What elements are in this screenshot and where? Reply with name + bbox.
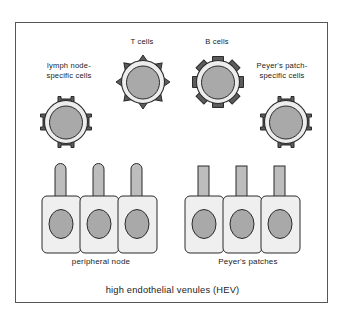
peyers-patches-venules <box>184 151 304 261</box>
t-cells-label: T cells <box>112 37 172 47</box>
peyers-patch-specific-cell <box>253 89 319 155</box>
lymphocyte-homing-diagram: T cells B cells <box>0 0 347 317</box>
b-cell-nucleus <box>202 66 235 99</box>
stalk-flat-3 <box>274 166 285 199</box>
lymph-node-specific-cells-label: lymph node- specific cells <box>30 61 108 80</box>
peripheral-node-label: peripheral node <box>51 257 151 267</box>
lymph-node-cell-nucleus <box>50 106 83 139</box>
peyers-patches-label: Peyer's patches <box>198 257 298 267</box>
lymph-node-specific-cell <box>33 89 99 155</box>
peyers-patch-specific-cells-label: Peyer's patch- specific cells <box>240 61 324 80</box>
peripheral-node-stalks <box>55 164 142 200</box>
b-cell <box>185 49 251 115</box>
peyers-patch-cell-nucleus <box>270 106 303 139</box>
t-cell-nucleus <box>127 66 160 99</box>
stalk-rounded-2 <box>93 164 104 200</box>
figure-caption: high endothelial venules (HEV) <box>16 285 329 295</box>
peyers-patches-endothelial-cells <box>185 196 300 253</box>
peyers-patches-stalks <box>198 166 285 199</box>
diagram-frame: T cells B cells <box>15 22 328 303</box>
b-cells-label: B cells <box>187 37 247 47</box>
peripheral-node-venules <box>41 151 161 261</box>
stalk-rounded-1 <box>55 164 66 200</box>
stalk-rounded-3 <box>131 164 142 200</box>
stalk-flat-1 <box>198 166 209 199</box>
peripheral-node-endothelial-cells <box>42 196 157 253</box>
t-cell <box>110 49 176 115</box>
stalk-flat-2 <box>236 166 247 199</box>
